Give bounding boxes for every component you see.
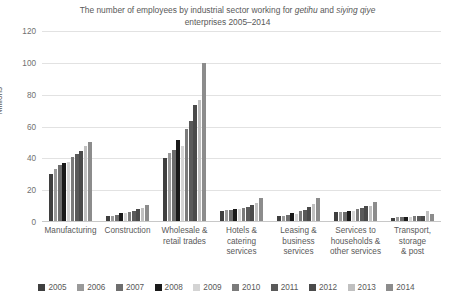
bar xyxy=(141,208,145,222)
y-axis-tick-label: 80 xyxy=(10,90,36,99)
legend-item[interactable]: 2005 xyxy=(38,283,66,292)
chart-title-italic-getihu: getihu xyxy=(295,5,318,15)
legend-label: 2006 xyxy=(87,283,105,292)
x-axis-category-label: Transport,storage& post xyxy=(384,226,441,274)
bar xyxy=(84,146,88,222)
legend-label: 2013 xyxy=(358,283,376,292)
bar xyxy=(316,198,320,222)
bar-group xyxy=(156,31,213,222)
category-label-line: catering xyxy=(214,237,269,248)
bar xyxy=(185,129,189,222)
chart-title-text-a: The number of employees by industrial se… xyxy=(80,5,295,15)
legend-label: 2007 xyxy=(126,283,144,292)
legend-item[interactable]: 2013 xyxy=(348,283,376,292)
bar xyxy=(307,207,311,222)
category-label-line: services xyxy=(214,247,269,258)
bar xyxy=(246,207,250,222)
bar-group xyxy=(270,31,327,222)
bar-group xyxy=(99,31,156,222)
bar xyxy=(79,151,83,222)
chart-legend: 2005200620072008200920102011201220132014 xyxy=(0,283,453,292)
y-axis-tick-label: 0 xyxy=(10,218,36,227)
legend-swatch-icon xyxy=(155,284,162,291)
bar-group xyxy=(327,31,384,222)
plot-area xyxy=(42,31,441,222)
bar xyxy=(176,140,180,222)
category-label-line: Construction xyxy=(100,226,155,237)
bar-groups xyxy=(42,31,441,222)
legend-label: 2008 xyxy=(165,283,183,292)
bar xyxy=(364,206,368,222)
bar-group xyxy=(384,31,441,222)
category-label-line: retail trades xyxy=(157,237,212,248)
bar xyxy=(58,165,62,222)
bar xyxy=(181,146,185,222)
legend-swatch-icon xyxy=(232,284,239,291)
bar xyxy=(75,154,79,222)
bar xyxy=(193,105,197,222)
bar xyxy=(62,163,66,222)
legend-swatch-icon xyxy=(193,284,200,291)
chart-title-italic-siying: siying xyxy=(336,5,357,15)
x-axis-category-label: Services tohouseholds &other services xyxy=(327,226,384,274)
category-label-line: households & xyxy=(328,237,383,248)
legend-item[interactable]: 2011 xyxy=(271,283,299,292)
bar-group xyxy=(42,31,99,222)
legend-item[interactable]: 2008 xyxy=(155,283,183,292)
x-axis-category-label: Manufacturing xyxy=(42,226,99,274)
chart-title: The number of employees by industrial se… xyxy=(60,4,395,28)
legend-item[interactable]: 2014 xyxy=(386,283,414,292)
legend-swatch-icon xyxy=(116,284,123,291)
legend-label: 2009 xyxy=(203,283,221,292)
bar xyxy=(54,169,58,222)
category-label-line: Services to xyxy=(328,226,383,237)
bar xyxy=(189,121,193,222)
x-axis-labels: ManufacturingConstructionWholesale &reta… xyxy=(42,226,441,274)
bar xyxy=(168,153,172,222)
bar xyxy=(242,208,246,222)
bar xyxy=(163,158,167,222)
bar xyxy=(312,204,316,222)
legend-swatch-icon xyxy=(38,284,45,291)
legend-swatch-icon xyxy=(386,284,393,291)
bar xyxy=(172,150,176,222)
y-axis-title: Millions xyxy=(0,87,4,114)
y-axis-tick-label: 40 xyxy=(10,154,36,163)
bar xyxy=(373,202,377,222)
bar xyxy=(49,174,53,222)
legend-label: 2014 xyxy=(396,283,414,292)
legend-swatch-icon xyxy=(348,284,355,291)
legend-swatch-icon xyxy=(271,284,278,291)
legend-item[interactable]: 2007 xyxy=(116,283,144,292)
legend-item[interactable]: 2010 xyxy=(232,283,260,292)
legend-swatch-icon xyxy=(77,284,84,291)
y-axis-tick-label: 120 xyxy=(10,27,36,36)
category-label-line: Transport, xyxy=(385,226,440,237)
bar xyxy=(145,205,149,223)
legend-item[interactable]: 2012 xyxy=(309,283,337,292)
bar-group xyxy=(213,31,270,222)
chart-title-italic-qiye: qiye xyxy=(360,5,375,15)
bar xyxy=(67,162,71,222)
bar xyxy=(202,63,206,222)
legend-label: 2011 xyxy=(281,283,299,292)
legend-item[interactable]: 2009 xyxy=(193,283,221,292)
bar-chart: The number of employees by industrial se… xyxy=(0,0,453,303)
legend-label: 2010 xyxy=(242,283,260,292)
category-label-line: Manufacturing xyxy=(43,226,98,237)
category-label-line: Leasing & xyxy=(271,226,326,237)
legend-item[interactable]: 2006 xyxy=(77,283,105,292)
x-axis-category-label: Leasing &businessservices xyxy=(270,226,327,274)
category-label-line: Hotels & xyxy=(214,226,269,237)
legend-label: 2012 xyxy=(319,283,337,292)
legend-swatch-icon xyxy=(309,284,316,291)
y-axis-tick-label: 20 xyxy=(10,186,36,195)
x-axis-category-label: Hotels &cateringservices xyxy=(213,226,270,274)
chart-title-text-b: and xyxy=(318,5,337,15)
category-label-line: other services xyxy=(328,247,383,258)
x-axis-category-label: Construction xyxy=(99,226,156,274)
category-label-line: storage xyxy=(385,237,440,248)
category-label-line: Wholesale & xyxy=(157,226,212,237)
bar xyxy=(71,157,75,222)
bar xyxy=(360,208,364,222)
